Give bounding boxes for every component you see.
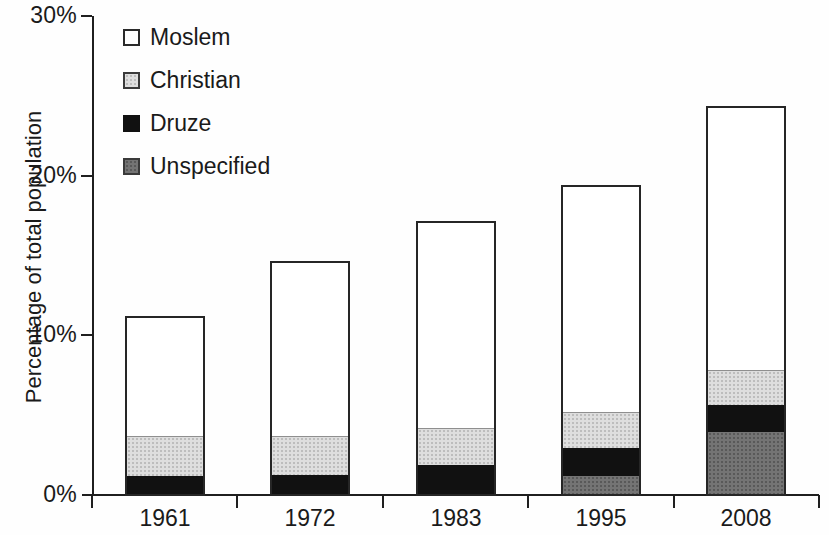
x-tick <box>818 495 820 508</box>
bar-segment-moslem <box>418 221 494 429</box>
legend-label: Christian <box>150 69 241 92</box>
legend-item-unspecified: Unspecified <box>123 156 270 176</box>
bar-segment-unspecified <box>708 432 784 494</box>
x-tick <box>673 495 675 508</box>
legend-swatch-christian <box>123 72 140 89</box>
y-tick <box>81 334 92 336</box>
x-tick <box>382 495 384 508</box>
stacked-bar-chart: Percentage of total population 0%10%20%3… <box>0 0 829 535</box>
bar-segment-christian <box>708 371 784 405</box>
bar-segment-druze <box>127 476 203 494</box>
y-tick-label: 10% <box>17 323 77 346</box>
y-tick <box>81 175 92 177</box>
bar-segment-unspecified <box>563 476 639 494</box>
bar-segment-moslem <box>563 185 639 413</box>
bar-1961 <box>125 316 205 496</box>
bar-segment-christian <box>563 413 639 448</box>
legend-label: Druze <box>150 112 211 135</box>
x-tick <box>527 495 529 508</box>
legend-item-druze: Druze <box>123 113 211 133</box>
bar-2008 <box>706 106 786 496</box>
bar-segment-christian <box>418 429 494 466</box>
legend-swatch-druze <box>123 115 140 132</box>
y-tick <box>81 15 92 17</box>
bar-segment-druze <box>418 465 494 494</box>
y-tick-label: 0% <box>17 483 77 506</box>
bar-segment-moslem <box>272 261 348 437</box>
legend-swatch-unspecified <box>123 158 140 175</box>
x-tick <box>236 495 238 508</box>
bar-segment-druze <box>563 448 639 477</box>
x-tick-label: 1961 <box>105 506 225 530</box>
y-axis-title: Percentage of total population <box>21 107 47 407</box>
x-tick-label: 1995 <box>541 506 661 530</box>
bar-segment-druze <box>272 475 348 494</box>
legend-item-moslem: Moslem <box>123 27 231 47</box>
x-tick-label: 1983 <box>396 506 516 530</box>
x-tick-label: 2008 <box>686 506 806 530</box>
x-tick-label: 1972 <box>250 506 370 530</box>
y-axis-line <box>92 16 94 496</box>
bar-segment-moslem <box>127 316 203 437</box>
bar-segment-christian <box>272 437 348 475</box>
legend-label: Unspecified <box>150 155 270 178</box>
legend-item-christian: Christian <box>123 70 241 90</box>
x-tick <box>91 495 93 508</box>
bar-segment-moslem <box>708 106 784 371</box>
bar-segment-christian <box>127 437 203 477</box>
legend-swatch-moslem <box>123 29 140 46</box>
bar-1972 <box>270 261 350 496</box>
y-tick-label: 20% <box>17 164 77 187</box>
y-tick-label: 30% <box>17 4 77 27</box>
bar-1983 <box>416 221 496 496</box>
bar-1995 <box>561 185 641 496</box>
bar-segment-druze <box>708 405 784 432</box>
legend-label: Moslem <box>150 26 231 49</box>
